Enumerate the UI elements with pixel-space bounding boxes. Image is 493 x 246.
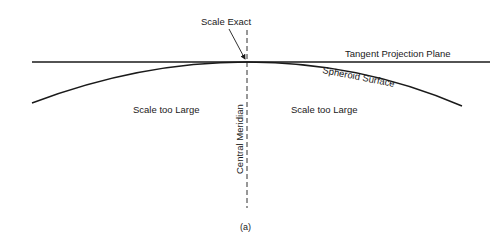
scale-too-large-left-label: Scale too Large — [133, 104, 200, 115]
scale-too-large-right-label: Scale too Large — [291, 104, 358, 115]
spheroid-surface-curve — [32, 62, 462, 106]
central-meridian-label: Central Meridian — [234, 104, 245, 174]
tangent-projection-diagram: Scale Exact Tangent Projection Plane Sph… — [0, 0, 493, 246]
spheroid-surface-label: Spheroid Surface — [322, 64, 396, 89]
scale-exact-arrow — [229, 29, 245, 59]
scale-exact-label: Scale Exact — [201, 16, 252, 27]
figure-caption: (a) — [240, 222, 251, 232]
tangent-plane-label: Tangent Projection Plane — [345, 48, 451, 59]
